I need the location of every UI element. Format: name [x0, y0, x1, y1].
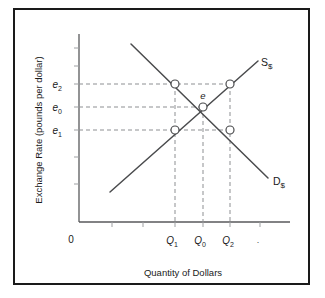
- demand-curve: [131, 44, 268, 178]
- y-tick-label-e0: e0: [53, 102, 63, 115]
- x-axis-title: Quantity of Dollars: [144, 267, 222, 278]
- y-tick-label-e2: e2: [53, 79, 63, 92]
- demand-curve-label: D$: [273, 175, 286, 190]
- x-tick-label-q0: Q0: [194, 235, 206, 248]
- supply-demand-chart: e e2 e0 e1 Q1 Q0 Q2 . 0 S$ D$ Quantity o…: [0, 0, 325, 298]
- y-tick-label-e1: e1: [53, 125, 63, 138]
- point-q1-e1: [171, 126, 179, 134]
- point-q2-e2: [226, 80, 234, 88]
- x-axis-ticks: [112, 222, 260, 227]
- supply-curve: [110, 61, 258, 192]
- x-tick-label-q2: Q2: [222, 235, 234, 248]
- origin-label: 0: [68, 234, 74, 245]
- supply-curve-label: S$: [261, 56, 273, 71]
- y-axis-ticks: [74, 48, 79, 184]
- axis-trailing-mark: .: [257, 235, 260, 245]
- point-q2-e1: [226, 126, 234, 134]
- y-axis-title: Exchange Rate (pounds per dollar): [33, 56, 44, 203]
- equilibrium-label: e: [200, 90, 205, 101]
- point-q1-e2: [171, 80, 179, 88]
- x-tick-label-q1: Q1: [166, 235, 178, 248]
- chart-stage: e e2 e0 e1 Q1 Q0 Q2 . 0 S$ D$ Quantity o…: [0, 0, 325, 298]
- point-equilibrium: [199, 103, 207, 111]
